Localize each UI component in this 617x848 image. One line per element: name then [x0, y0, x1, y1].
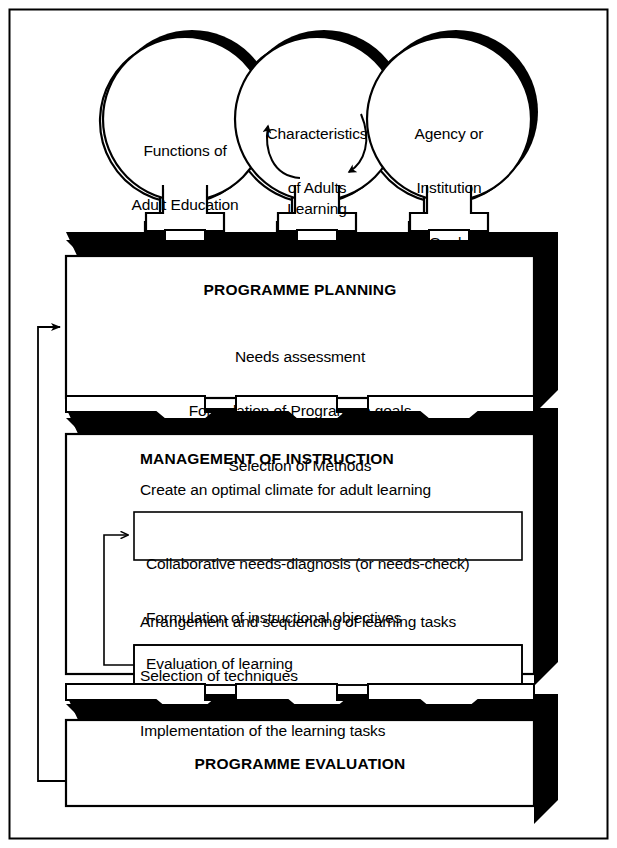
programme-evaluation-title: PROGRAMME EVALUATION	[66, 755, 534, 773]
needs-diagnosis-line-1: Collaborative needs-diagnosis (or needs-…	[146, 555, 520, 573]
circle-3-line-2: Institution	[379, 179, 519, 197]
planning-line-2: Formulation of Programme goals	[66, 402, 534, 420]
circle-label-functions-of-adult-education: Functions of Adult Education	[105, 105, 265, 251]
diagram-canvas: Functions of Adult Education Characteris…	[0, 0, 617, 848]
circle-3-line-3: Goals	[379, 234, 519, 252]
planning-line-1: Needs assessment	[66, 348, 534, 366]
programme-planning-title: PROGRAMME PLANNING	[66, 281, 534, 299]
circle-label-agency-or-institution-goals: Agency or Institution Goals	[379, 88, 519, 289]
management-middle-line-3: Implementation of the learning tasks	[140, 722, 530, 740]
management-intro-line: Create an optimal climate for adult lear…	[140, 481, 530, 499]
management-middle-line-1: Arrangement and sequencing of learning t…	[140, 613, 530, 631]
management-of-instruction-title: MANAGEMENT OF INSTRUCTION	[140, 450, 530, 468]
circle-1-line-2: Adult Education	[105, 196, 265, 214]
circle-1-line-1: Functions of	[105, 142, 265, 160]
management-middle-lines: Arrangement and sequencing of learning t…	[140, 576, 530, 777]
evaluation-of-learning-subbox-text: Evaluation of learning	[146, 655, 520, 673]
circle-2-line-3: Learning	[262, 200, 372, 218]
circle-2-line-1: Characteristics	[251, 125, 383, 143]
circle-label-learning: Learning	[262, 163, 372, 254]
circle-3-line-1: Agency or	[379, 125, 519, 143]
